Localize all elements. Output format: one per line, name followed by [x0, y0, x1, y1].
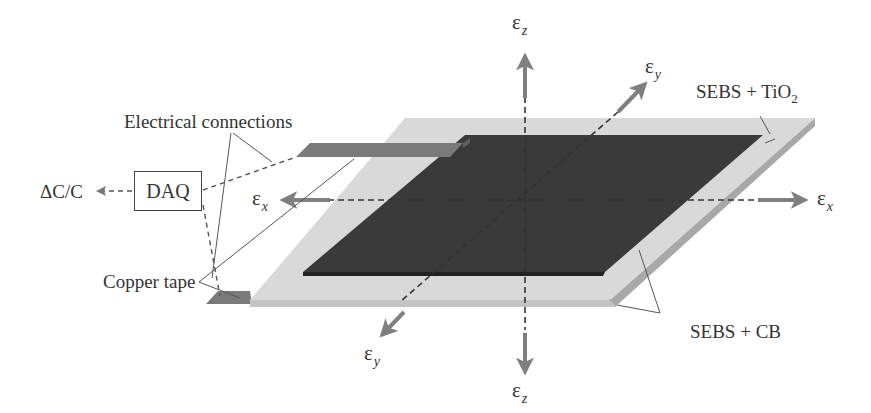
- ez-neg-label: εz: [512, 380, 527, 401]
- diagram-svg: [0, 0, 871, 413]
- dielectric-label-text: SEBS + TiO: [696, 81, 791, 102]
- ex-neg-label: εx: [252, 188, 268, 209]
- diagram-canvas: Electrical connections Copper tape DAQ Δ…: [0, 0, 871, 413]
- electrical-connections-label: Electrical connections: [124, 112, 292, 131]
- wire-top: [203, 157, 296, 190]
- copper-tape-label: Copper tape: [103, 272, 195, 291]
- wire-bottom: [203, 205, 220, 296]
- dielectric-label: SEBS + TiO2: [696, 82, 798, 101]
- output-label: ΔC/C: [40, 182, 83, 201]
- ey-neg-arrow: [382, 312, 404, 335]
- ez-pos-label: εz: [512, 12, 527, 33]
- leader-ec-1: [212, 133, 231, 278]
- daq-label: DAQ: [146, 180, 189, 203]
- copper-tape-bottom: [206, 291, 252, 304]
- ey-neg-label: εy: [364, 343, 380, 364]
- leader-ec-2: [233, 133, 272, 162]
- ex-pos-label: εx: [817, 188, 833, 209]
- daq-box: DAQ: [134, 171, 202, 211]
- electrodes-label: SEBS + CB: [690, 322, 781, 341]
- ey-pos-arrow: [618, 84, 645, 112]
- ey-pos-label: εy: [645, 56, 661, 77]
- leader-cb-bottom: [617, 305, 660, 313]
- dielectric-label-subscript: 2: [791, 91, 798, 106]
